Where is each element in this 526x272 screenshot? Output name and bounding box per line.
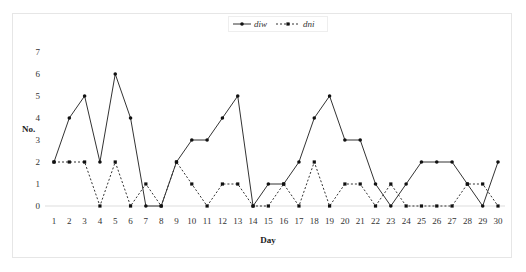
x-tick-label: 5 <box>113 216 118 226</box>
data-point-diw <box>68 116 72 120</box>
y-tick-label: 5 <box>36 91 41 101</box>
x-tick-label: 13 <box>233 216 243 226</box>
data-point-dni <box>267 204 270 207</box>
x-tick-label: 17 <box>294 216 304 226</box>
data-point-dni <box>359 182 362 185</box>
x-tick-label: 30 <box>494 216 504 226</box>
x-tick-label: 7 <box>144 216 149 226</box>
data-point-dni <box>282 182 285 185</box>
x-tick-label: 21 <box>356 216 365 226</box>
data-point-diw <box>113 72 117 76</box>
y-tick-label: 2 <box>36 157 41 167</box>
data-point-diw <box>450 160 454 164</box>
legend: diwdni <box>233 19 315 29</box>
data-point-diw <box>144 204 148 208</box>
data-point-dni <box>52 160 55 163</box>
x-tick-label: 25 <box>417 216 427 226</box>
data-point-dni <box>221 182 224 185</box>
x-tick-label: 29 <box>478 216 488 226</box>
data-point-diw <box>190 138 194 142</box>
data-point-dni <box>466 182 469 185</box>
data-point-dni <box>496 204 499 207</box>
x-tick-label: 23 <box>386 216 396 226</box>
data-point-dni <box>175 160 178 163</box>
data-point-dni <box>435 204 438 207</box>
line-chart: diwdni 01234567 123456789101112131415161… <box>0 0 526 272</box>
x-tick-label: 18 <box>310 216 320 226</box>
data-point-dni <box>313 160 316 163</box>
data-point-dni <box>343 182 346 185</box>
data-point-dni <box>98 204 101 207</box>
x-tick-label: 3 <box>82 216 87 226</box>
data-point-dni <box>190 182 193 185</box>
data-point-dni <box>160 204 163 207</box>
y-tick-label: 1 <box>36 179 41 189</box>
data-point-dni <box>297 204 300 207</box>
data-point-diw <box>236 94 240 98</box>
x-tick-label: 22 <box>371 216 380 226</box>
series-diw-line <box>54 74 498 206</box>
data-point-dni <box>374 204 377 207</box>
x-tick-label: 14 <box>249 216 259 226</box>
y-tick-label: 3 <box>36 135 41 145</box>
x-tick-label: 15 <box>264 216 274 226</box>
data-point-dni <box>328 204 331 207</box>
data-point-diw <box>83 94 87 98</box>
data-point-dni <box>236 182 239 185</box>
x-tick-label: 4 <box>98 216 103 226</box>
y-tick-label: 6 <box>36 69 41 79</box>
data-point-dni <box>144 182 147 185</box>
data-point-diw <box>297 160 301 164</box>
data-point-dni <box>420 204 423 207</box>
data-point-dni <box>114 160 117 163</box>
data-point-diw <box>221 116 225 120</box>
x-tick-label: 26 <box>432 216 442 226</box>
x-tick-label: 16 <box>279 216 289 226</box>
x-tick-label: 2 <box>67 216 72 226</box>
data-point-dni <box>450 204 453 207</box>
x-tick-label: 10 <box>187 216 197 226</box>
x-tick-label: 6 <box>128 216 133 226</box>
data-point-diw <box>496 160 500 164</box>
x-axis-label: Day <box>260 235 276 245</box>
x-tick-label: 8 <box>159 216 164 226</box>
x-tick-label: 9 <box>174 216 179 226</box>
data-point-diw <box>435 160 439 164</box>
data-point-diw <box>343 138 347 142</box>
data-point-diw <box>98 160 102 164</box>
data-point-dni <box>83 160 86 163</box>
y-axis-label: No. <box>22 124 35 134</box>
data-point-dni <box>481 182 484 185</box>
data-point-diw <box>389 204 393 208</box>
data-point-dni <box>389 182 392 185</box>
data-point-dni <box>251 204 254 207</box>
legend-diw-marker <box>240 22 244 26</box>
data-point-dni <box>129 204 132 207</box>
data-point-diw <box>129 116 133 120</box>
data-point-diw <box>481 204 485 208</box>
x-tick-label: 12 <box>218 216 227 226</box>
data-point-diw <box>312 116 316 120</box>
x-tick-label: 24 <box>402 216 412 226</box>
data-point-diw <box>267 182 271 186</box>
legend-diw-label: diw <box>254 19 267 29</box>
data-point-dni <box>405 204 408 207</box>
x-axis-ticks: 1234567891011121314151617181920212223242… <box>52 216 503 226</box>
y-tick-label: 7 <box>36 47 41 57</box>
legend-dni-marker <box>286 22 289 25</box>
x-tick-label: 28 <box>463 216 473 226</box>
data-point-dni <box>206 204 209 207</box>
x-tick-label: 19 <box>325 216 335 226</box>
data-point-diw <box>420 160 424 164</box>
y-tick-label: 4 <box>36 113 41 123</box>
legend-dni-label: dni <box>303 19 315 29</box>
data-point-diw <box>358 138 362 142</box>
x-tick-label: 20 <box>340 216 350 226</box>
data-point-diw <box>374 182 378 186</box>
y-axis-ticks: 01234567 <box>36 47 41 211</box>
y-tick-label: 0 <box>36 201 41 211</box>
x-tick-label: 11 <box>203 216 212 226</box>
data-point-diw <box>404 182 408 186</box>
x-tick-label: 1 <box>52 216 57 226</box>
series-lines <box>52 72 500 208</box>
